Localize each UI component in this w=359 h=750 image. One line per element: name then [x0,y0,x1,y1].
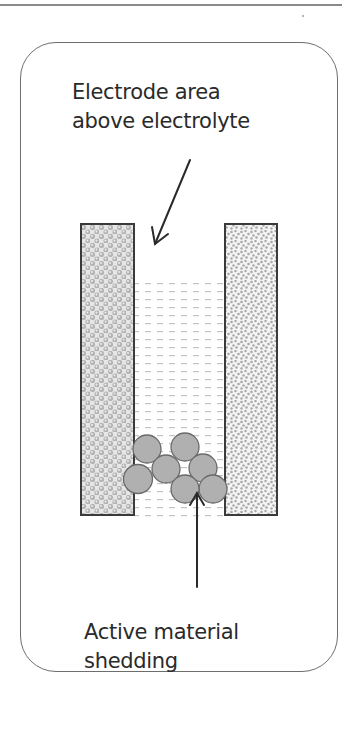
label-active-material-shedding: Active material shedding [84,618,239,676]
label-shedding-line1: Active material [84,618,239,647]
arrow-down-icon [152,160,190,244]
particle [124,465,153,494]
label-shedding-line2: shedding [84,647,239,676]
right-electrode [225,224,277,515]
particle [171,475,199,503]
particle [199,475,227,503]
